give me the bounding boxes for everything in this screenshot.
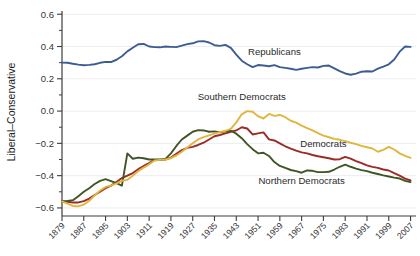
line-chart: 0.60.40.20.0−0.2−0.4−0.6 187918871895190… (0, 0, 420, 256)
series-label-northern-democrats: Northern Democrats (258, 175, 345, 186)
chart-container: 0.60.40.20.0−0.2−0.4−0.6 187918871895190… (0, 0, 420, 256)
y-tick-label: 0.0 (41, 105, 54, 116)
y-tick-label: 0.4 (41, 41, 54, 52)
y-tick-label: −0.4 (35, 170, 54, 181)
series-label-democrats: Democrats (300, 138, 347, 149)
series-label-republicans: Republicans (248, 46, 301, 57)
chart-background (0, 0, 420, 256)
y-axis-title: Liberal–Conservative (5, 63, 17, 162)
series-label-southern-democrats: Southern Democrats (198, 91, 286, 102)
y-tick-label: −0.2 (35, 138, 54, 149)
y-tick-label: 0.6 (41, 9, 54, 20)
y-tick-label: 0.2 (41, 73, 54, 84)
y-tick-label: −0.6 (35, 202, 54, 213)
